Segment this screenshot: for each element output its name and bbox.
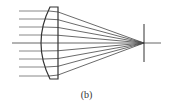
- ray-inside-lens: [49, 11, 58, 12]
- refracted-ray: [58, 27, 144, 43]
- refracted-ray: [58, 43, 144, 75]
- figure-caption: (b): [0, 89, 173, 100]
- refracted-ray: [58, 43, 144, 59]
- ray-inside-lens: [46, 66, 58, 67]
- refracted-converging-rays: [41, 11, 144, 76]
- ray-inside-lens: [49, 75, 58, 76]
- refracted-ray: [58, 12, 144, 43]
- ray-inside-lens: [46, 19, 58, 20]
